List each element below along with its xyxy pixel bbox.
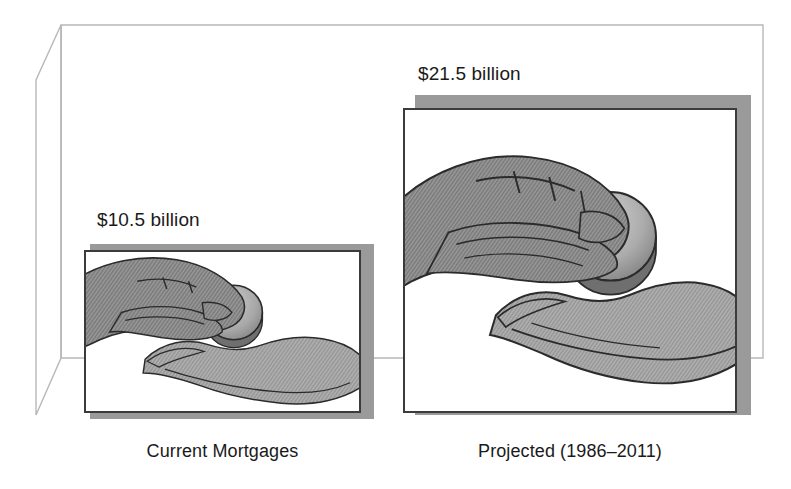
- panel-picture-frame: [403, 108, 737, 413]
- category-label-current-mortgages: Current Mortgages: [84, 440, 361, 462]
- panel-projected-1986-2011[interactable]: [403, 95, 751, 415]
- pictograph-figure: $10.5 billion Current Mortgages: [0, 0, 791, 489]
- panel-current-mortgages[interactable]: [84, 244, 374, 419]
- value-label-current-mortgages: $10.5 billion: [97, 209, 200, 231]
- hand-passing-coin-icon: [405, 110, 735, 411]
- category-label-projected-1986-2011: Projected (1986–2011): [403, 440, 737, 462]
- backdrop-left-wall: [36, 25, 61, 415]
- hand-passing-coin-icon: [86, 252, 359, 411]
- panel-picture-frame: [84, 250, 361, 413]
- value-label-projected-1986-2011: $21.5 billion: [418, 63, 521, 85]
